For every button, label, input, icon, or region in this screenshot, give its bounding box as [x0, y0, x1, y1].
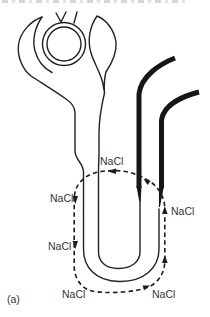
- nacl-label-left-lower: NaCl: [48, 240, 71, 252]
- diagram-canvas: NaCl NaCl NaCl NaCl NaCl NaCl (a): [0, 0, 210, 317]
- thick-ascending-wall-outer: [162, 92, 200, 188]
- nacl-label-left-upper: NaCl: [50, 192, 73, 204]
- thick-wall-inner-taper: [137, 186, 142, 202]
- glomerulus-outer-circle: [43, 23, 86, 66]
- nacl-label-top-center: NaCl: [100, 155, 123, 167]
- arrow-right-bottom: [143, 286, 151, 291]
- thick-wall-outer-taper: [159, 186, 164, 207]
- arrow-down-left-lower: [73, 241, 79, 249]
- nacl-label-right: NaCl: [171, 205, 194, 217]
- thick-ascending-wall-inner: [139, 58, 175, 188]
- capsule-right-arm: [89, 16, 116, 93]
- arteriole-stubs: [56, 12, 77, 23]
- arrow-up-right-upper: [162, 206, 168, 214]
- nephron-loop-diagram: NaCl NaCl NaCl NaCl NaCl NaCl (a): [0, 0, 210, 317]
- panel-label: (a): [7, 293, 20, 305]
- arrow-left-top-arc: [108, 169, 117, 175]
- nacl-label-bottom-right: NaCl: [152, 288, 175, 300]
- glomerulus-inner-circle: [47, 27, 81, 61]
- inner-tubule-wall-and-hairpin: [99, 93, 141, 269]
- nacl-label-bottom-left: NaCl: [62, 288, 85, 300]
- arrow-up-right-lower: [162, 255, 168, 263]
- nacl-recycling-dashed-loop: [74, 171, 165, 293]
